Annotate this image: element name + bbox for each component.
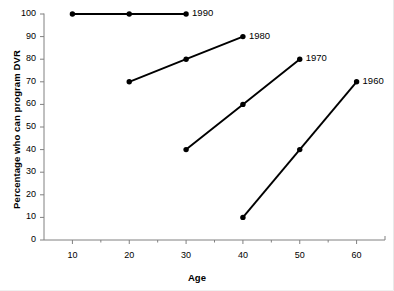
x-axis-title: Age — [0, 272, 394, 283]
data-point-marker — [127, 11, 132, 16]
x-tick-label: 30 — [166, 250, 206, 260]
x-tick-label: 60 — [337, 250, 377, 260]
x-tick-label: 20 — [109, 250, 149, 260]
data-point-marker — [240, 34, 245, 39]
plot-area — [0, 0, 394, 291]
data-point-marker — [127, 79, 132, 84]
y-axis-title: Percentage who can program DVR — [11, 10, 22, 250]
x-tick-label: 40 — [223, 250, 263, 260]
series-label-1960: 1960 — [363, 75, 384, 86]
x-tick-label: 50 — [280, 250, 320, 260]
data-point-marker — [297, 57, 302, 62]
data-point-marker — [70, 11, 75, 16]
series-label-1980: 1980 — [249, 30, 270, 41]
series-label-1990: 1990 — [192, 7, 213, 18]
data-point-marker — [183, 57, 188, 62]
data-point-marker — [183, 147, 188, 152]
data-point-marker — [183, 11, 188, 16]
data-point-marker — [240, 215, 245, 220]
data-point-marker — [354, 79, 359, 84]
x-tick-label: 10 — [52, 250, 92, 260]
series-label-1970: 1970 — [306, 52, 327, 63]
chart-figure: 0102030405060708090100 102030405060 1990… — [0, 0, 394, 291]
data-series-group — [70, 11, 360, 220]
data-point-marker — [240, 102, 245, 107]
data-point-marker — [297, 147, 302, 152]
